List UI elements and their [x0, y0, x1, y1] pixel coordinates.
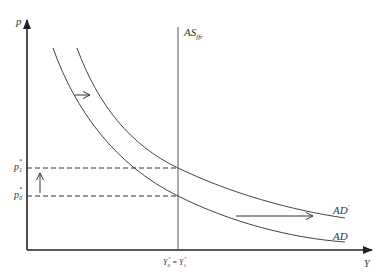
ad-prime-curve: [77, 48, 345, 218]
ad-prime-label: AD': [332, 203, 350, 216]
ad-label: AD: [332, 230, 348, 242]
p1-label: p1*: [13, 158, 22, 173]
output-level-label: Y0*=Y1*: [163, 256, 187, 268]
x-axis-label: Y: [364, 258, 371, 269]
y-axis-label: p: [15, 15, 22, 27]
p0-label: p0*: [13, 186, 22, 201]
as-label: ASffr: [183, 26, 203, 41]
ad-curve: [53, 48, 345, 242]
ad-as-diagram: p Y ASffr AD' AD p1* p0* Y0*=Y1*: [0, 0, 392, 279]
